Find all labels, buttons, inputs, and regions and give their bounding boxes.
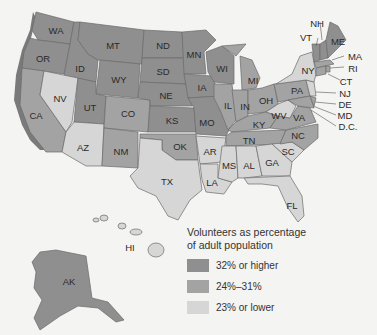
label-IA: IA: [198, 82, 208, 93]
label-OH: OH: [259, 95, 273, 106]
label-MA: MA: [348, 51, 363, 62]
label-TX: TX: [161, 176, 174, 187]
label-UT: UT: [84, 102, 97, 113]
label-WV: WV: [271, 110, 287, 121]
state-AK[interactable]: [32, 250, 124, 330]
legend-title-line2: of adult population: [187, 239, 317, 252]
legend-item-mid: 24%–31%: [187, 276, 317, 296]
label-MD: MD: [338, 110, 353, 121]
label-AL: AL: [243, 160, 255, 171]
label-IL: IL: [224, 100, 232, 111]
label-DE: DE: [338, 99, 351, 110]
label-LA: LA: [206, 177, 218, 188]
label-ND: ND: [156, 40, 170, 51]
label-MO: MO: [199, 117, 214, 128]
label-OR: OR: [36, 53, 50, 64]
label-NH: NH: [310, 18, 324, 29]
label-ID: ID: [75, 63, 85, 74]
label-KY: KY: [253, 119, 266, 130]
label-AR: AR: [203, 146, 216, 157]
label-NV: NV: [53, 93, 67, 104]
label-KS: KS: [166, 115, 179, 126]
legend-swatch-mid: [187, 280, 209, 293]
label-TN: TN: [243, 135, 256, 146]
label-SC: SC: [281, 146, 294, 157]
label-FL: FL: [286, 200, 297, 211]
label-MI: MI: [248, 75, 259, 86]
label-CO: CO: [121, 108, 135, 119]
label-ME: ME: [331, 36, 345, 47]
label-RI: RI: [348, 63, 358, 74]
label-MS: MS: [222, 160, 236, 171]
label-IN: IN: [240, 101, 250, 112]
label-DC: D.C.: [339, 121, 358, 132]
label-NJ: NJ: [339, 88, 351, 99]
legend-label-mid: 24%–31%: [216, 281, 262, 292]
legend-item-low: 23% or lower: [187, 297, 317, 317]
label-MT: MT: [106, 40, 120, 51]
state-RI[interactable]: [326, 66, 330, 72]
legend-swatch-high: [187, 259, 209, 272]
label-NE: NE: [159, 90, 172, 101]
label-OK: OK: [173, 141, 187, 152]
map-legend: Volunteers as percentage of adult popula…: [187, 226, 317, 318]
label-VA: VA: [293, 112, 306, 123]
legend-title-line1: Volunteers as percentage: [187, 226, 317, 239]
label-CA: CA: [29, 110, 43, 121]
state-CT[interactable]: [316, 66, 326, 76]
legend-swatch-low: [187, 301, 209, 314]
label-PA: PA: [291, 85, 304, 96]
label-NC: NC: [291, 130, 305, 141]
label-HI: HI: [125, 242, 135, 253]
label-WA: WA: [49, 25, 65, 36]
legend-label-low: 23% or lower: [216, 302, 274, 313]
label-AZ: AZ: [77, 142, 89, 153]
label-WI: WI: [216, 63, 228, 74]
legend-title: Volunteers as percentage of adult popula…: [187, 226, 317, 252]
label-WY: WY: [111, 74, 127, 85]
label-VT: VT: [300, 32, 312, 43]
label-GA: GA: [265, 157, 279, 168]
label-SD: SD: [156, 66, 169, 77]
label-NM: NM: [114, 146, 129, 157]
label-MN: MN: [187, 49, 202, 60]
label-CT: CT: [340, 76, 353, 87]
legend-item-high: 32% or higher: [187, 255, 317, 275]
label-AK: AK: [63, 276, 76, 287]
label-NY: NY: [301, 65, 315, 76]
legend-label-high: 32% or higher: [216, 260, 278, 271]
